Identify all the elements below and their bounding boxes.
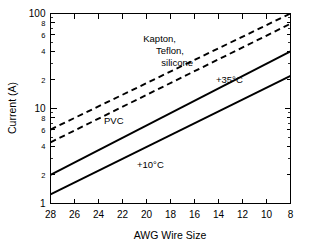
y-axis-tick-labels: 12468102468100 — [29, 8, 46, 209]
y-tick-label: 10 — [34, 103, 46, 114]
y-tick-label: 4 — [41, 47, 45, 56]
annotation-insulation-line-1: Kapton, — [143, 33, 176, 44]
y-tick-label: 6 — [41, 31, 45, 40]
y-tick-label: 100 — [29, 8, 46, 19]
annotation-insulation-line-3: silicone — [161, 57, 193, 68]
x-tick-label: 14 — [213, 209, 225, 220]
annotation-temp-35: +35°C — [216, 74, 243, 85]
y-tick-label: 8 — [41, 114, 45, 123]
x-tick-label: 20 — [141, 209, 153, 220]
annotation-pvc: PVC — [104, 115, 124, 126]
x-tick-label: 18 — [165, 209, 177, 220]
x-axis-tick-labels: 282624222018161412108 — [45, 209, 294, 220]
current-vs-awg-chart: 12468102468100 282624222018161412108 AWG… — [0, 0, 315, 244]
x-tick-label: 8 — [288, 209, 294, 220]
y-tick-label: 2 — [41, 76, 45, 85]
series-line — [51, 51, 291, 175]
x-tick-label: 16 — [189, 209, 201, 220]
annotation-temp-10: +10°C — [137, 159, 164, 170]
x-tick-label: 26 — [69, 209, 81, 220]
series-line — [51, 76, 291, 194]
x-tick-label: 28 — [45, 209, 57, 220]
annotation-insulation: Kapton, Teflon, silicone — [143, 33, 193, 68]
x-tick-label: 24 — [93, 209, 105, 220]
y-tick-label: 2 — [41, 171, 45, 180]
annotation-insulation-line-2: Teflon, — [156, 45, 184, 56]
y-axis-title: Current (A) — [6, 82, 18, 134]
x-axis-title: AWG Wire Size — [134, 229, 207, 241]
y-tick-label: 8 — [41, 19, 45, 28]
y-tick-label: 6 — [41, 126, 45, 135]
x-tick-label: 12 — [237, 209, 249, 220]
x-tick-label: 22 — [117, 209, 129, 220]
chart-canvas: 12468102468100 282624222018161412108 AWG… — [0, 0, 315, 244]
y-tick-label: 1 — [40, 198, 46, 209]
y-tick-label: 4 — [41, 142, 45, 151]
x-tick-label: 10 — [261, 209, 273, 220]
